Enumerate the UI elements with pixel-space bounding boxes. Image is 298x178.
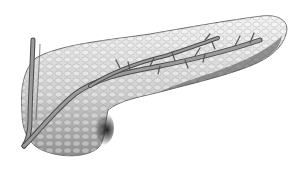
head-shadow [86, 110, 114, 146]
pancreas-drawing [0, 0, 298, 178]
pancreas-illustration [0, 0, 298, 178]
